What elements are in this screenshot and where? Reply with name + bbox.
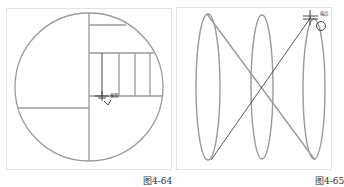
figure-caption-4-64: 图4-64 <box>143 174 172 187</box>
endpoint-snap-label: 端点 <box>320 10 329 17</box>
figure-4-65-drawing <box>196 14 325 160</box>
quadrant-snap-label: 象限 <box>110 92 119 99</box>
diagonal-line-gray <box>207 14 315 160</box>
figure-caption-4-65: 图4-65 <box>315 174 344 187</box>
figure-4-64-drawing <box>15 13 163 161</box>
crosshair-cursor-icon <box>95 91 111 105</box>
left-ellipse <box>196 14 220 160</box>
endpoint-marker-icon <box>317 22 326 31</box>
diagonal-line-dark <box>211 17 311 160</box>
right-ellipse <box>303 19 325 159</box>
